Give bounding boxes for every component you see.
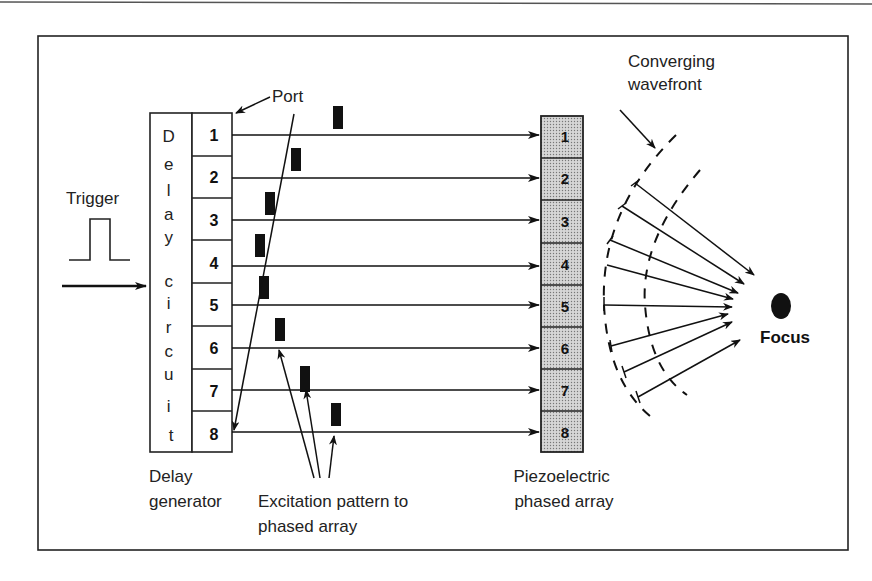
- port-1: 1: [210, 127, 219, 144]
- port-pointer-arrow: [236, 97, 270, 113]
- page-top-rule: [0, 2, 872, 4]
- port-8: 8: [210, 426, 219, 443]
- element-4: 4: [561, 256, 570, 273]
- port-2: 2: [210, 169, 219, 186]
- port-label: Port: [272, 87, 303, 106]
- excitation-pattern-label: Excitation pattern to phased array: [258, 492, 413, 536]
- port-5: 5: [210, 297, 219, 314]
- delay-circuit-box: D e l a y c i r c u i t: [150, 113, 192, 452]
- port-7: 7: [210, 383, 219, 400]
- element-1: 1: [561, 128, 569, 145]
- port-column: 1 2 3 4 5 6 7 8: [192, 113, 232, 452]
- trigger-label: Trigger: [66, 189, 120, 208]
- trigger-pulse-icon: [69, 219, 130, 260]
- port-6: 6: [210, 340, 219, 357]
- piezo-array-label: Piezoelectric phased array: [513, 467, 614, 511]
- port-3: 3: [210, 212, 219, 229]
- focus-label: Focus: [760, 328, 810, 347]
- wavefront-pointer-arrow: [620, 110, 655, 148]
- piezo-array: 1 2 3 4 5 6 7 8: [541, 116, 583, 452]
- wavefront-outer-arc: [604, 135, 676, 420]
- focus-point-icon: [771, 293, 791, 319]
- signal-lines: [232, 135, 539, 432]
- wavefront-label: Converging wavefront: [627, 52, 720, 94]
- converging-rays: [604, 180, 754, 403]
- element-8: 8: [561, 424, 569, 441]
- delay-generator-label: Delay generator: [149, 467, 222, 511]
- phased-array-diagram: Trigger D e l a y c i r c u i t 1 2 3: [0, 0, 872, 581]
- element-7: 7: [561, 382, 569, 399]
- delay-slope-arrow: [234, 114, 294, 430]
- element-6: 6: [561, 340, 569, 357]
- element-5: 5: [561, 298, 569, 315]
- element-2: 2: [561, 170, 569, 187]
- element-3: 3: [561, 213, 569, 230]
- port-4: 4: [210, 255, 219, 272]
